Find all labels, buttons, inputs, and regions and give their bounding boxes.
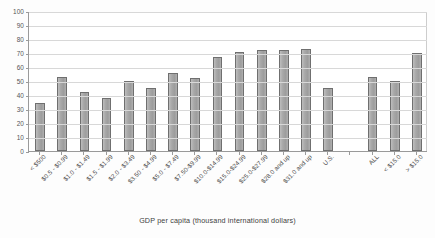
- y-axis-tickmark: [26, 12, 29, 13]
- bar: [80, 92, 90, 151]
- bar: [146, 88, 156, 151]
- y-axis-tick-label: 0: [0, 149, 24, 155]
- y-axis-tickmark: [26, 40, 29, 41]
- bar: [390, 81, 400, 151]
- x-axis-title: GDP per capita (thousand international d…: [0, 216, 435, 225]
- bar: [368, 77, 378, 151]
- gridline: [29, 110, 427, 111]
- bar: [190, 78, 200, 151]
- bar: [257, 50, 267, 151]
- bar: [57, 77, 67, 151]
- y-axis-tickmark: [26, 26, 29, 27]
- y-axis-tick-label: 80: [0, 37, 24, 43]
- gridline: [29, 96, 427, 97]
- y-axis-tick-label: 100: [0, 9, 24, 15]
- y-axis-tick-label: 30: [0, 107, 24, 113]
- y-axis-tick-label: 20: [0, 121, 24, 127]
- bar: [124, 81, 134, 151]
- bar: [279, 50, 289, 151]
- x-axis-tick-label: > $15.0: [404, 153, 424, 173]
- gridline: [29, 82, 427, 83]
- y-axis-tick-labels: 0102030405060708090100: [0, 12, 24, 152]
- x-axis-tick-labels: < $500$0.5 - $0.99$1.0 - $1.49$1.5 - $1.…: [28, 153, 427, 213]
- y-axis-tickmark: [26, 96, 29, 97]
- bar: [323, 88, 333, 151]
- y-axis-tickmark: [26, 54, 29, 55]
- bar: [213, 57, 223, 151]
- x-axis-tick-label: U.S.: [321, 153, 335, 167]
- gridline: [29, 124, 427, 125]
- y-axis-tickmark: [26, 124, 29, 125]
- plot-area: [28, 12, 427, 152]
- gridline: [29, 68, 427, 69]
- y-axis-tick-label: 40: [0, 93, 24, 99]
- gridline: [29, 138, 427, 139]
- y-axis-tick-label: 60: [0, 65, 24, 71]
- y-axis-tickmark: [26, 110, 29, 111]
- chart-plot-wrapper: 0102030405060708090100 < $500$0.5 - $0.9…: [0, 0, 435, 238]
- y-axis-tickmark: [26, 68, 29, 69]
- x-axis-tick-label: ALL: [367, 153, 380, 166]
- y-axis-tick-label: 50: [0, 79, 24, 85]
- x-axis-tick-label: < $500: [28, 153, 47, 172]
- y-axis-tick-label: 70: [0, 51, 24, 57]
- x-axis-tick-label: < $15.0: [382, 153, 402, 173]
- gridline: [29, 40, 427, 41]
- gridline: [29, 54, 427, 55]
- bar: [168, 73, 178, 151]
- y-axis-tickmark: [26, 138, 29, 139]
- bar: [301, 49, 311, 151]
- bar-chart: 0102030405060708090100 < $500$0.5 - $0.9…: [0, 0, 435, 238]
- y-axis-tick-label: 10: [0, 135, 24, 141]
- gridline: [29, 12, 427, 13]
- y-axis-tickmark: [26, 82, 29, 83]
- bar: [235, 52, 245, 151]
- gridline: [29, 26, 427, 27]
- y-axis-tick-label: 90: [0, 23, 24, 29]
